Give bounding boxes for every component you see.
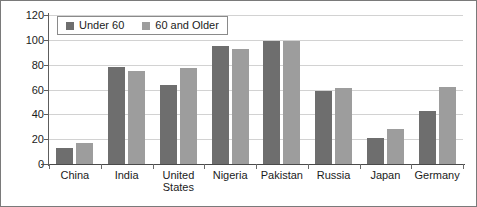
x-axis-tick-label-line: China — [49, 169, 101, 181]
bar — [180, 68, 197, 164]
bar — [335, 88, 352, 164]
legend-entry: 60 and Older — [142, 20, 219, 31]
x-axis-tick-label-line: United — [153, 169, 205, 181]
y-axis-tick-labels: 020406080100120 — [1, 1, 44, 207]
legend-swatch-icon — [66, 22, 74, 30]
chart-legend: Under 6060 and Older — [57, 16, 228, 35]
x-axis-tick-label: Germany — [411, 169, 463, 193]
bar-group — [101, 15, 153, 164]
bar — [232, 49, 249, 164]
x-axis-tick-mark — [463, 164, 464, 169]
bar — [387, 129, 404, 164]
bar-group — [411, 15, 463, 164]
x-axis-tick-label: China — [49, 169, 101, 193]
y-axis-tick-mark — [44, 164, 49, 165]
x-axis-tick-labels: ChinaIndiaUnitedStatesNigeriaPakistanRus… — [49, 169, 463, 193]
bar — [160, 85, 177, 164]
x-axis-tick-label: UnitedStates — [153, 169, 205, 193]
bar — [439, 87, 456, 164]
bar-group — [360, 15, 412, 164]
bar — [283, 41, 300, 164]
x-axis-tick-label-line: Germany — [411, 169, 463, 181]
legend-swatch-icon — [142, 22, 150, 30]
bar — [212, 46, 229, 164]
bar — [108, 67, 125, 164]
y-axis-tick-label: 20 — [4, 134, 44, 145]
x-axis-tick-label: Japan — [360, 169, 412, 193]
x-axis-tick-label-line: Nigeria — [204, 169, 256, 181]
bar-group — [204, 15, 256, 164]
y-axis-tick-label: 0 — [4, 159, 44, 170]
y-axis-tick-mark — [44, 114, 49, 115]
bar-group — [153, 15, 205, 164]
x-axis-tick-label-line: States — [153, 181, 205, 193]
legend-label: Under 60 — [79, 20, 124, 31]
x-axis-tick-label-line: India — [101, 169, 153, 181]
bar-group — [256, 15, 308, 164]
bar-group — [49, 15, 101, 164]
bar — [263, 41, 280, 164]
bar — [76, 143, 93, 164]
bar — [315, 91, 332, 164]
legend-label: 60 and Older — [155, 20, 219, 31]
bar — [128, 71, 145, 164]
bars-layer — [49, 15, 463, 164]
bar — [419, 111, 436, 164]
x-axis-tick-label-line: Japan — [360, 169, 412, 181]
x-axis-tick-label-line: Pakistan — [256, 169, 308, 181]
bar — [56, 148, 73, 164]
y-axis-tick-label: 60 — [4, 84, 44, 95]
bar-group — [308, 15, 360, 164]
y-axis-tick-mark — [44, 90, 49, 91]
y-axis-tick-label: 40 — [4, 109, 44, 120]
y-axis-tick-label: 120 — [4, 10, 44, 21]
y-axis-tick-label: 100 — [4, 34, 44, 45]
y-axis-tick-label: 80 — [4, 59, 44, 70]
y-axis-tick-mark — [44, 65, 49, 66]
bar — [367, 138, 384, 164]
x-axis-tick-label: Nigeria — [204, 169, 256, 193]
x-axis-tick-label: Pakistan — [256, 169, 308, 193]
y-axis-tick-mark — [44, 139, 49, 140]
bar-chart: 020406080100120 ChinaIndiaUnitedStatesNi… — [0, 0, 477, 207]
y-axis-tick-mark — [44, 15, 49, 16]
x-axis-tick-label-line: Russia — [308, 169, 360, 181]
x-axis-tick-label: India — [101, 169, 153, 193]
x-axis-tick-label: Russia — [308, 169, 360, 193]
legend-entry: Under 60 — [66, 20, 124, 31]
y-axis-tick-mark — [44, 40, 49, 41]
